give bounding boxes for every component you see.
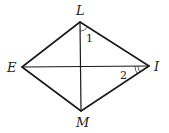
side-IM (81, 66, 149, 111)
vertex-label-M: M (75, 115, 90, 130)
side-ME (22, 67, 81, 111)
vertex-label-L: L (75, 3, 85, 18)
angle-1-arc (80, 27, 88, 31)
diagonal-EI (22, 66, 149, 67)
angle-label-2: 2 (120, 69, 127, 82)
angle-2-arc-inner (138, 66, 140, 72)
rhombus-diagram: L E I M 1 2 (0, 0, 169, 133)
angle-label-1: 1 (86, 32, 93, 45)
vertex-label-I: I (153, 59, 160, 74)
angle-2-arc-outer (135, 66, 137, 74)
side-EL (22, 22, 80, 67)
vertex-label-E: E (6, 60, 17, 75)
